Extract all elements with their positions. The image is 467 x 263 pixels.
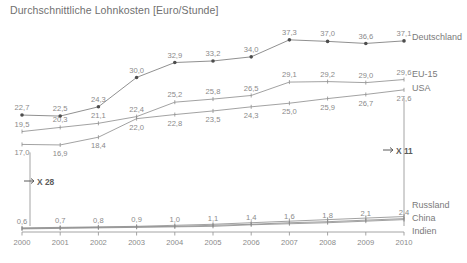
x-axis-tick-label: 2005 bbox=[205, 238, 222, 247]
x-axis-tick-label: 2007 bbox=[281, 238, 298, 247]
data-label: 18,4 bbox=[91, 141, 106, 150]
data-label: 27,6 bbox=[397, 94, 412, 103]
data-label: 26,5 bbox=[244, 84, 259, 93]
chart-container: Durchschnittliche Lohnkosten [Euro/Stund… bbox=[0, 0, 467, 263]
data-label: 0,8 bbox=[93, 216, 104, 225]
data-label: 1,8 bbox=[322, 211, 333, 220]
data-label: 25,0 bbox=[282, 107, 297, 116]
data-label: 19,5 bbox=[15, 120, 30, 129]
data-label: 25,9 bbox=[320, 103, 335, 112]
x-axis-tick-label: 2004 bbox=[166, 238, 183, 247]
legend-label-russland: Russland bbox=[412, 200, 450, 210]
x-axis-tick-label: 2000 bbox=[14, 238, 31, 247]
data-label: 29,1 bbox=[282, 70, 297, 79]
data-label: 1,6 bbox=[284, 212, 295, 221]
data-label: 1,0 bbox=[170, 215, 181, 224]
data-label: 2,4 bbox=[399, 208, 410, 217]
x-axis-tick-label: 2003 bbox=[128, 238, 145, 247]
legend-label-deutschland: Deutschland bbox=[412, 32, 462, 42]
x-axis-tick-label: 2001 bbox=[52, 238, 69, 247]
data-label: 37,1 bbox=[397, 29, 412, 38]
x-axis-tick-label: 2008 bbox=[319, 238, 336, 247]
data-label: 32,9 bbox=[167, 51, 182, 60]
legend-label-china: China bbox=[412, 213, 436, 223]
data-label: 29,2 bbox=[320, 70, 335, 79]
data-label: 0,6 bbox=[17, 217, 28, 226]
data-label: 22,4 bbox=[129, 105, 144, 114]
legend-label-indien: Indien bbox=[412, 226, 437, 236]
data-label: 26,7 bbox=[358, 99, 373, 108]
data-label: 0,7 bbox=[55, 216, 66, 225]
x-axis-tick-label: 2006 bbox=[243, 238, 260, 247]
annotation-x11: X 11 bbox=[396, 146, 413, 156]
chart-plot-area bbox=[0, 0, 467, 263]
data-label: 22,8 bbox=[167, 119, 182, 128]
data-label: 36,6 bbox=[358, 32, 373, 41]
data-label: 29,6 bbox=[397, 68, 412, 77]
data-label: 37,3 bbox=[282, 28, 297, 37]
data-label: 22,5 bbox=[53, 104, 68, 113]
x-axis-tick-label: 2002 bbox=[90, 238, 107, 247]
x-axis-tick-label: 2010 bbox=[396, 238, 413, 247]
data-label: 1,4 bbox=[246, 213, 257, 222]
data-label: 1,1 bbox=[208, 214, 219, 223]
legend-label-usa: USA bbox=[412, 83, 431, 93]
data-label: 21,1 bbox=[91, 111, 106, 120]
data-label: 33,2 bbox=[206, 49, 221, 58]
data-label: 24,3 bbox=[244, 111, 259, 120]
data-label: 2,1 bbox=[361, 209, 372, 218]
data-label: 0,9 bbox=[131, 215, 142, 224]
data-label: 34,0 bbox=[244, 45, 259, 54]
data-label: 29,0 bbox=[358, 71, 373, 80]
data-label: 22,0 bbox=[129, 123, 144, 132]
data-label: 25,2 bbox=[167, 90, 182, 99]
data-label: 22,7 bbox=[15, 103, 30, 112]
x-axis-tick-label: 2009 bbox=[357, 238, 374, 247]
annotation-x28: X 28 bbox=[37, 177, 54, 187]
data-label: 24,3 bbox=[91, 95, 106, 104]
data-label: 17,0 bbox=[15, 148, 30, 157]
data-label: 30,0 bbox=[129, 66, 144, 75]
data-label: 23,5 bbox=[206, 115, 221, 124]
data-label: 37,0 bbox=[320, 29, 335, 38]
data-label: 25,8 bbox=[206, 87, 221, 96]
data-label: 16,9 bbox=[53, 149, 68, 158]
legend-label-eu15: EU-15 bbox=[412, 69, 438, 79]
data-label: 20,3 bbox=[53, 115, 68, 124]
